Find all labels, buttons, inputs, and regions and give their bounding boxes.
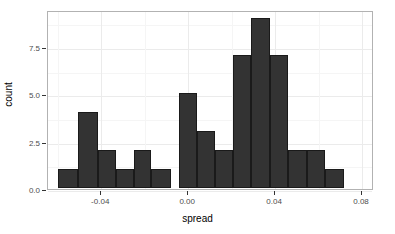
x-tick-mark	[361, 191, 362, 195]
histogram-bar	[307, 150, 325, 188]
histogram-bar	[233, 55, 251, 188]
histogram-bar	[134, 150, 151, 188]
y-tick-mark	[42, 143, 46, 144]
histogram-bar	[179, 93, 196, 188]
x-tick-label: -0.04	[91, 197, 109, 206]
y-tick-label: 0.0	[7, 186, 40, 195]
histogram-bar	[215, 150, 232, 188]
chart-screenshot: count spread 0.02.55.07.5-0.040.000.040.…	[0, 0, 395, 234]
histogram-bar	[197, 131, 215, 188]
x-tick-label: 0.08	[353, 197, 369, 206]
histogram-bar	[325, 169, 343, 188]
x-tick-mark	[187, 191, 188, 195]
histogram-bar	[78, 112, 98, 188]
x-tick-mark	[100, 191, 101, 195]
y-tick-mark	[42, 190, 46, 191]
x-tick-label: 0.04	[266, 197, 282, 206]
histogram-bar	[98, 150, 116, 188]
x-axis-title: spread	[0, 213, 395, 224]
histogram-bar	[270, 55, 288, 188]
x-tick-mark	[274, 191, 275, 195]
histogram-bars	[48, 12, 372, 189]
y-tick-label: 2.5	[7, 138, 40, 147]
histogram-bar	[116, 169, 133, 188]
y-tick-mark	[42, 48, 46, 49]
gridline-major-horizontal	[48, 191, 372, 192]
histogram-bar	[151, 169, 171, 188]
histogram-bar	[288, 150, 306, 188]
histogram-bar	[251, 18, 269, 188]
x-tick-label: 0.00	[179, 197, 195, 206]
histogram-bar	[58, 169, 79, 188]
y-tick-mark	[42, 95, 46, 96]
y-tick-label: 5.0	[7, 91, 40, 100]
plot-panel	[47, 11, 373, 190]
y-tick-label: 7.5	[7, 43, 40, 52]
